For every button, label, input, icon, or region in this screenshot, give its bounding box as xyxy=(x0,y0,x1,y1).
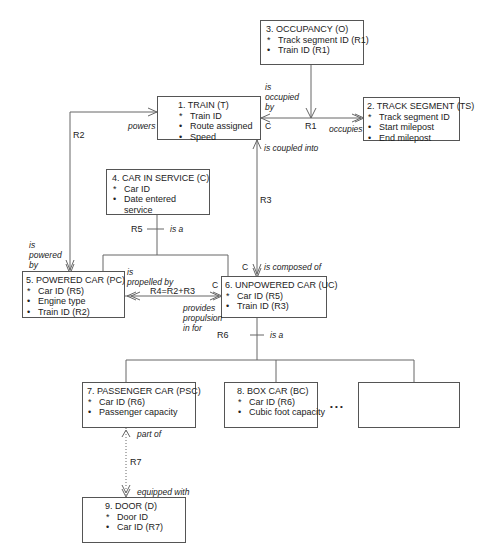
r7-reverse-phrase: equipped with xyxy=(137,487,189,497)
r2-reverse-phrase-3: by xyxy=(29,260,38,270)
r1-reverse-phrase-2: occupied xyxy=(265,92,299,102)
object-unpowered-car: 6. UNPOWERED CAR (UC) *Car ID (R5) •Trai… xyxy=(221,276,327,318)
attribute: •Route assigned xyxy=(178,121,255,132)
attribute: •Car ID (R7) xyxy=(105,522,180,533)
attribute: *Train ID xyxy=(178,111,255,122)
object-door: 9. DOOR (D) *Door ID •Car ID (R7) xyxy=(82,497,186,543)
object-occupancy: 3. OCCUPANCY (O) *Track segment ID (R1) … xyxy=(260,20,364,65)
r7-label: R7 xyxy=(130,457,142,467)
r1-conditional: C xyxy=(265,121,271,131)
object-title: 2. TRACK SEGMENT (TS) xyxy=(367,101,454,112)
r3-conditional: C xyxy=(242,262,248,272)
object-placeholder-empty xyxy=(358,382,460,428)
r1-reverse-phrase-3: by xyxy=(265,102,274,112)
r5-phrase: is a xyxy=(170,224,183,234)
attribute: •Passenger capacity xyxy=(87,407,190,418)
r5-label: R5 xyxy=(131,224,143,234)
object-title: 6. UNPOWERED CAR (UC) xyxy=(225,280,321,291)
object-track-segment: 2. TRACK SEGMENT (TS) *Track segment ID … xyxy=(363,97,460,141)
r2-reverse-phrase-1: is xyxy=(29,240,35,250)
attribute: *Car ID (R5) xyxy=(225,291,321,302)
attribute: *Car ID (R6) xyxy=(87,397,190,408)
object-title: 4. CAR IN SERVICE (C) xyxy=(112,173,204,184)
object-title: 1. TRAIN (T) xyxy=(178,100,255,111)
object-train: 1. TRAIN (T) *Train ID •Route assigned •… xyxy=(157,96,261,140)
object-title: 9. DOOR (D) xyxy=(105,501,180,512)
object-passenger-car: 7. PASSENGER CAR (PSC) *Car ID (R6) •Pas… xyxy=(82,382,196,428)
r6-phrase: is a xyxy=(270,330,283,340)
r3-reverse-phrase: is composed of xyxy=(264,262,321,272)
attribute: *Car ID (R5) xyxy=(26,286,119,297)
attribute: *Track segment ID xyxy=(367,112,454,123)
r2-forward-phrase: powers xyxy=(128,121,155,131)
r4-reverse-phrase-1: provides xyxy=(183,303,215,313)
r3-label: R3 xyxy=(260,195,272,205)
r2-label: R2 xyxy=(73,130,85,140)
attribute: •End milepost xyxy=(367,133,454,144)
object-title: 7. PASSENGER CAR (PSC) xyxy=(87,386,190,397)
r1-forward-phrase: occupies xyxy=(329,124,363,134)
attribute: •Engine type xyxy=(26,296,119,307)
r3-forward-phrase: is coupled into xyxy=(264,143,318,153)
r4-conditional: C xyxy=(212,280,218,290)
attribute: *Car ID (R6) xyxy=(237,397,312,408)
object-box-car: 8. BOX CAR (BC) *Car ID (R6) •Cubic foot… xyxy=(224,382,318,428)
r4-label: R4=R2+R3 xyxy=(150,286,195,296)
r4-reverse-phrase-3: in for xyxy=(183,323,202,333)
r4-reverse-phrase-2: propulsion xyxy=(183,313,222,323)
object-powered-car: 5. POWERED CAR (PC) *Car ID (R5) •Engine… xyxy=(22,271,125,318)
r7-forward-phrase: part of xyxy=(137,429,161,439)
r2-reverse-phrase-2: powered xyxy=(29,250,62,260)
r4-forward-phrase-1: is xyxy=(127,267,133,277)
attribute: •Train ID (R2) xyxy=(26,307,119,318)
r1-label: R1 xyxy=(305,121,317,131)
object-car-in-service: 4. CAR IN SERVICE (C) *Car ID •Date ente… xyxy=(106,169,210,215)
object-title: 5. POWERED CAR (PC) xyxy=(26,275,119,286)
attribute: •Date entered xyxy=(112,194,204,205)
attribute: *Door ID xyxy=(105,512,180,523)
attribute: *Track segment ID (R1) xyxy=(266,35,358,46)
r6-label: R6 xyxy=(217,330,229,340)
attribute: •Train ID (R3) xyxy=(225,301,321,312)
r1-reverse-phrase-1: is xyxy=(265,82,271,92)
object-title: 8. BOX CAR (BC) xyxy=(237,386,312,397)
attribute: •Cubic foot capacity xyxy=(237,407,312,418)
attribute: •Speed xyxy=(178,132,255,143)
attribute: •Start milepost xyxy=(367,122,454,133)
object-title: 3. OCCUPANCY (O) xyxy=(266,24,358,35)
attribute: *Car ID xyxy=(112,184,204,195)
attribute: service xyxy=(112,205,204,216)
attribute: •Train ID (R1) xyxy=(266,45,358,56)
ellipsis-more-subtypes: • • • xyxy=(330,402,343,412)
